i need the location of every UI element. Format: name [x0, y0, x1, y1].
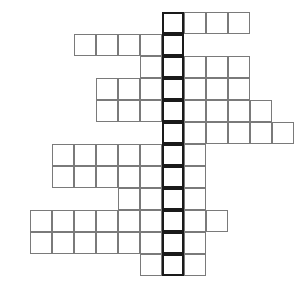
crossword-cell[interactable]: [74, 144, 96, 166]
crossword-cell[interactable]: [118, 210, 140, 232]
crossword-cell[interactable]: [52, 166, 74, 188]
crossword-cell[interactable]: [96, 210, 118, 232]
crossword-key-cell[interactable]: [162, 12, 184, 34]
crossword-puzzle: [0, 0, 307, 301]
crossword-key-cell[interactable]: [162, 188, 184, 210]
crossword-cell[interactable]: [30, 210, 52, 232]
crossword-key-cell[interactable]: [162, 166, 184, 188]
crossword-cell[interactable]: [52, 144, 74, 166]
crossword-key-cell[interactable]: [162, 122, 184, 144]
crossword-cell[interactable]: [96, 34, 118, 56]
crossword-cell[interactable]: [118, 78, 140, 100]
crossword-cell[interactable]: [206, 78, 228, 100]
crossword-cell[interactable]: [52, 210, 74, 232]
crossword-cell[interactable]: [184, 254, 206, 276]
crossword-cell[interactable]: [118, 166, 140, 188]
crossword-cell[interactable]: [96, 100, 118, 122]
crossword-cell[interactable]: [140, 144, 162, 166]
crossword-cell[interactable]: [140, 100, 162, 122]
crossword-cell[interactable]: [96, 166, 118, 188]
crossword-cell[interactable]: [184, 188, 206, 210]
crossword-cell[interactable]: [184, 100, 206, 122]
crossword-cell[interactable]: [206, 12, 228, 34]
crossword-cell[interactable]: [96, 232, 118, 254]
crossword-cell[interactable]: [184, 122, 206, 144]
crossword-cell[interactable]: [206, 122, 228, 144]
crossword-cell[interactable]: [184, 232, 206, 254]
crossword-cell[interactable]: [184, 166, 206, 188]
crossword-key-cell[interactable]: [162, 56, 184, 78]
crossword-key-cell[interactable]: [162, 34, 184, 56]
crossword-cell[interactable]: [140, 210, 162, 232]
crossword-cell[interactable]: [96, 78, 118, 100]
crossword-key-cell[interactable]: [162, 232, 184, 254]
crossword-key-cell[interactable]: [162, 100, 184, 122]
crossword-cell[interactable]: [250, 100, 272, 122]
crossword-cell[interactable]: [250, 122, 272, 144]
crossword-cell[interactable]: [96, 144, 118, 166]
crossword-cell[interactable]: [206, 210, 228, 232]
crossword-cell[interactable]: [140, 254, 162, 276]
crossword-cell[interactable]: [228, 78, 250, 100]
crossword-cell[interactable]: [140, 166, 162, 188]
crossword-cell[interactable]: [74, 166, 96, 188]
crossword-cell[interactable]: [140, 78, 162, 100]
crossword-cell[interactable]: [118, 232, 140, 254]
crossword-cell[interactable]: [74, 232, 96, 254]
crossword-cell[interactable]: [140, 34, 162, 56]
crossword-cell[interactable]: [118, 144, 140, 166]
crossword-key-cell[interactable]: [162, 144, 184, 166]
crossword-cell[interactable]: [184, 56, 206, 78]
crossword-cell[interactable]: [228, 56, 250, 78]
crossword-cell[interactable]: [30, 232, 52, 254]
crossword-cell[interactable]: [184, 210, 206, 232]
crossword-cell[interactable]: [206, 100, 228, 122]
crossword-cell[interactable]: [52, 232, 74, 254]
crossword-cell[interactable]: [206, 56, 228, 78]
crossword-cell[interactable]: [228, 12, 250, 34]
crossword-cell[interactable]: [228, 100, 250, 122]
crossword-cell[interactable]: [184, 144, 206, 166]
crossword-cell[interactable]: [184, 12, 206, 34]
crossword-cell[interactable]: [140, 56, 162, 78]
crossword-cell[interactable]: [272, 122, 294, 144]
crossword-key-cell[interactable]: [162, 254, 184, 276]
crossword-cell[interactable]: [118, 34, 140, 56]
crossword-cell[interactable]: [118, 100, 140, 122]
crossword-cell[interactable]: [74, 210, 96, 232]
crossword-key-cell[interactable]: [162, 78, 184, 100]
crossword-cell[interactable]: [184, 78, 206, 100]
crossword-cell[interactable]: [74, 34, 96, 56]
crossword-cell[interactable]: [118, 188, 140, 210]
crossword-key-cell[interactable]: [162, 210, 184, 232]
crossword-cell[interactable]: [228, 122, 250, 144]
crossword-cell[interactable]: [140, 232, 162, 254]
crossword-cell[interactable]: [140, 188, 162, 210]
